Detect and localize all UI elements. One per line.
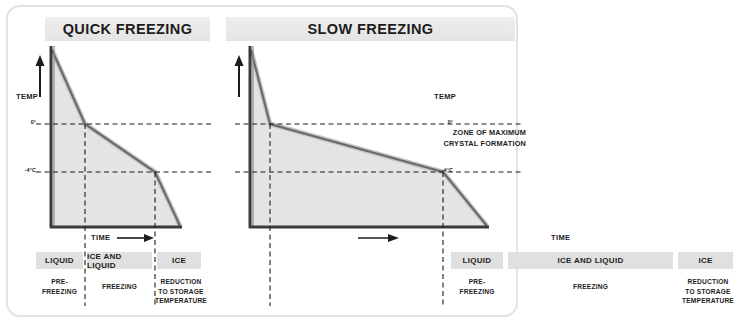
time-axis-arrow-head-slow — [388, 234, 399, 242]
stage-label-pre-freezing-slow: PRE- FREEZING — [451, 277, 503, 296]
phase-band-label: LIQUID — [463, 256, 492, 265]
stage-line: FREEZING — [87, 282, 152, 292]
stage-label-pre-freezing-quick: PRE- FREEZING — [36, 277, 83, 296]
stage-line: TEMPERATURE — [155, 296, 207, 306]
x-axis-label-quick: TIME — [91, 233, 111, 242]
stage-line: REDUCTION — [678, 277, 738, 287]
y-tick-minus4c-slow: -4°C — [431, 167, 453, 173]
phase-band-label: ICE — [698, 256, 712, 265]
y-axis-label-slow: TEMP — [434, 92, 456, 101]
phase-band-ice-and-liquid-quick: ICE AND LIQUID — [87, 252, 152, 269]
stage-line: TO STORAGE — [155, 287, 207, 297]
panel-slow-freezing: SLOW FREEZING — [218, 0, 530, 331]
phase-band-ice-and-liquid-slow: ICE AND LIQUID — [508, 252, 673, 269]
stage-label-freezing-slow: FREEZING — [508, 282, 673, 292]
phase-band-label: ICE — [172, 256, 186, 265]
y-tick-0c-slow: 0° — [439, 119, 453, 125]
y-axis-label-quick: TEMP — [16, 92, 38, 101]
time-axis-arrow-head-quick — [144, 234, 154, 242]
temp-axis-arrow-head-slow — [235, 55, 244, 66]
phase-band-label: ICE AND LIQUID — [87, 252, 152, 270]
curve-area-fill-quick — [52, 50, 180, 226]
y-tick-minus4c-quick: -4°C — [14, 167, 36, 173]
stage-line: FREEZING — [36, 287, 83, 297]
annotation-zone-of-maximum-crystal-formation: ZONE OF MAXIMUM CRYSTAL FORMATION — [414, 127, 526, 149]
y-tick-0c-quick: 0° — [22, 119, 36, 125]
phase-band-label: LIQUID — [45, 256, 74, 265]
stage-line: FREEZING — [451, 287, 503, 297]
stage-line: TO STORAGE — [678, 287, 738, 297]
stage-line: REDUCTION — [155, 277, 207, 287]
stage-line: PRE- — [36, 277, 83, 287]
stage-label-reduction-slow: REDUCTION TO STORAGE TEMPERATURE — [678, 277, 738, 306]
stage-line: TEMPERATURE — [678, 296, 738, 306]
panel-quick-freezing: QUICK FREEZING — [0, 0, 218, 331]
stage-label-reduction-quick: REDUCTION TO STORAGE TEMPERATURE — [155, 277, 207, 306]
phase-band-liquid-slow: LIQUID — [451, 252, 503, 269]
annotation-line-2: CRYSTAL FORMATION — [414, 138, 526, 149]
phase-band-label: ICE AND LIQUID — [557, 256, 623, 265]
stage-label-freezing-quick: FREEZING — [87, 282, 152, 292]
phase-band-ice-quick: ICE — [157, 252, 201, 269]
x-axis-label-slow: TIME — [551, 233, 571, 242]
stage-line: FREEZING — [508, 282, 673, 292]
annotation-line-1: ZONE OF MAXIMUM — [414, 127, 526, 138]
temp-axis-arrow-head-quick — [36, 55, 45, 66]
stage-line: PRE- — [451, 277, 503, 287]
phase-band-ice-slow: ICE — [678, 252, 733, 269]
phase-band-liquid-quick: LIQUID — [36, 252, 83, 269]
